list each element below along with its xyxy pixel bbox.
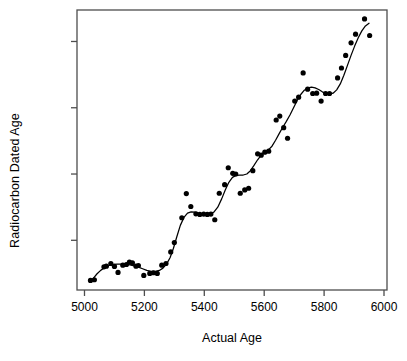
data-point bbox=[179, 215, 184, 220]
data-point bbox=[246, 186, 251, 191]
data-point bbox=[285, 136, 290, 141]
data-point bbox=[104, 264, 109, 269]
data-point bbox=[222, 182, 227, 187]
x-tick-label: 5600 bbox=[251, 300, 278, 314]
data-point bbox=[362, 16, 367, 21]
data-point bbox=[233, 171, 238, 176]
data-point bbox=[115, 270, 120, 275]
data-point bbox=[212, 217, 217, 222]
data-point bbox=[348, 40, 353, 45]
data-point bbox=[172, 240, 177, 245]
data-point bbox=[163, 261, 168, 266]
data-point bbox=[353, 32, 358, 37]
data-point bbox=[112, 264, 117, 269]
data-point bbox=[339, 65, 344, 70]
data-point bbox=[327, 91, 332, 96]
data-point bbox=[281, 125, 286, 130]
x-axis-title: Actual Age bbox=[77, 331, 387, 345]
x-axis-tick-labels: 500052005400560058006000 bbox=[0, 294, 407, 318]
data-point bbox=[277, 113, 282, 118]
data-point bbox=[343, 53, 348, 58]
data-point bbox=[296, 95, 301, 100]
scatter-plot-figure: 4600480050005200 50005200540056005800600… bbox=[0, 0, 407, 361]
data-point bbox=[184, 191, 189, 196]
x-tick-label: 5000 bbox=[71, 300, 98, 314]
data-point bbox=[305, 87, 310, 92]
data-point bbox=[266, 149, 271, 154]
data-point bbox=[274, 117, 279, 122]
data-point bbox=[250, 168, 255, 173]
data-point bbox=[292, 99, 297, 104]
data-point bbox=[301, 70, 306, 75]
x-tick-label: 5200 bbox=[131, 300, 158, 314]
data-point bbox=[155, 271, 160, 276]
data-point bbox=[92, 277, 97, 282]
plot-border bbox=[77, 10, 387, 290]
data-point bbox=[188, 204, 193, 209]
data-point bbox=[217, 191, 222, 196]
data-point bbox=[168, 249, 173, 254]
data-point bbox=[367, 33, 372, 38]
data-point bbox=[314, 91, 319, 96]
data-point bbox=[141, 273, 146, 278]
plot-frame bbox=[77, 10, 387, 290]
data-point bbox=[335, 75, 340, 80]
data-point bbox=[226, 165, 231, 170]
x-tick-label: 5400 bbox=[191, 300, 218, 314]
x-tick-label: 5800 bbox=[311, 300, 338, 314]
data-point bbox=[208, 212, 213, 217]
x-tick-label: 6000 bbox=[371, 300, 398, 314]
data-point bbox=[136, 263, 141, 268]
data-point bbox=[238, 191, 243, 196]
y-axis-title: Radiocarbon Dated Age bbox=[0, 0, 30, 361]
data-point bbox=[319, 99, 324, 104]
